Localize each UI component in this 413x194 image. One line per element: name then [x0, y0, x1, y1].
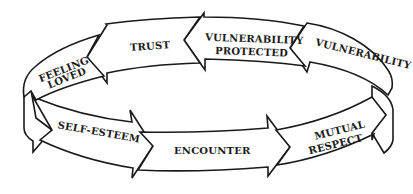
cycle-diagram: TRUST VULNERABILITY PROTECTED VULNERABIL…	[0, 0, 413, 194]
label-encounter: ENCOUNTER	[174, 145, 251, 156]
